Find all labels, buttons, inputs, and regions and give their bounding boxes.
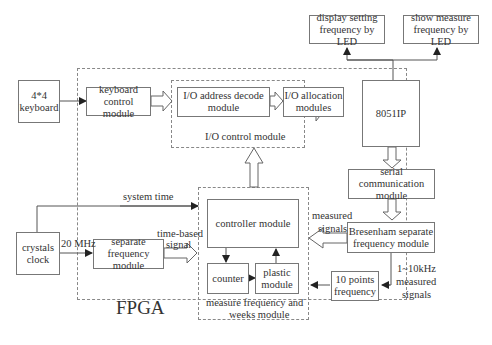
ten-points-frequency-box: 10 points frequency (331, 271, 379, 301)
khz-label-2: measured (396, 276, 436, 288)
box-label: show measure (411, 12, 471, 24)
box-label: I/O allocation (284, 90, 342, 102)
box-label: control module (87, 96, 150, 120)
box-label: clock (27, 254, 50, 266)
box-label: frequency by LED (404, 24, 478, 48)
khz-label-1: 1~10kHz (397, 263, 436, 275)
20mhz-label: 20 MHz (61, 238, 96, 250)
plastic-module-box: plastic module (255, 263, 299, 294)
crystals-clock-box: crystals clock (16, 232, 60, 275)
measure-module-label-2: weeks module (229, 309, 289, 321)
measure-module-label-1: measure frequency and (206, 297, 303, 309)
measured-signals-label-2: signals (318, 223, 347, 235)
box-label: I/O address decode (183, 90, 263, 102)
bresenham-module-box: Bresenham separate frequency module (347, 222, 435, 253)
box-label: keyboard (99, 84, 138, 96)
display-setting-led-box: display setting frequency by LED (309, 15, 385, 44)
io-allocation-modules-box: I/O allocation modules (283, 87, 344, 117)
box-label: module (261, 279, 293, 291)
box-label: 4*4 (31, 90, 47, 102)
box-label: module (376, 190, 408, 202)
counter-box: counter (207, 263, 249, 294)
system-time-label: system time (123, 191, 173, 203)
keyboard-4x4-box: 4*4 keyboard (18, 80, 60, 123)
box-label: 8051IP (376, 108, 406, 120)
controller-module-box: controller module (207, 199, 299, 248)
khz-label-3: signals (402, 289, 431, 301)
serial-communication-box: serial communication module (348, 169, 435, 199)
box-label: 10 points (336, 274, 375, 286)
box-label: crystals (22, 242, 54, 254)
box-label: Bresenham separate (349, 226, 433, 238)
io-address-decode-box: I/O address decode module (177, 87, 270, 117)
8051ip-box: 8051IP (362, 80, 420, 147)
box-label: serial communication (349, 166, 434, 190)
box-label: plastic (263, 267, 290, 279)
box-label: counter (212, 273, 244, 285)
io-control-label: I/O control module (205, 131, 285, 143)
box-label: frequency module (94, 248, 163, 272)
box-label: module (208, 102, 240, 114)
box-label: keyboard (19, 102, 58, 114)
box-label: frequency by LED (310, 24, 384, 48)
box-label: modules (296, 102, 332, 114)
keyboard-control-module-box: keyboard control module (86, 87, 151, 116)
box-label: frequency module (353, 238, 429, 250)
box-label: separate (111, 236, 145, 248)
box-label: controller module (216, 218, 291, 230)
fpga-label: FPGA (116, 298, 165, 318)
show-measure-led-box: show measure frequency by LED (403, 15, 479, 44)
time-based-label-2: signal (166, 239, 191, 251)
box-label: frequency (334, 286, 376, 298)
fpga-frequency-meter-diagram: 4*4 keyboard keyboard control module I/O… (0, 0, 492, 345)
box-label: display setting (317, 12, 378, 24)
separate-frequency-box: separate frequency module (93, 239, 164, 269)
measured-signals-label-1: measured (312, 210, 352, 222)
